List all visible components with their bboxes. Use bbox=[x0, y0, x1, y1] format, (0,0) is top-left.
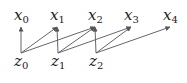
edge-z2-to-x4-arrow-icon bbox=[96, 27, 170, 53]
edge-z1-to-x2-arrow-icon bbox=[58, 27, 95, 53]
node-z2: z2 bbox=[88, 52, 103, 71]
top-node-labels: x0x1x2x3x4 bbox=[14, 6, 178, 25]
node-z0: z0 bbox=[13, 52, 28, 71]
edge-z2-to-x2-arrow-icon bbox=[95, 27, 96, 53]
edge-z0-to-x1-arrow-icon bbox=[21, 27, 57, 53]
edge-z1-to-x3-arrow-icon bbox=[58, 27, 131, 53]
edge-z2-to-x3-arrow-icon bbox=[96, 27, 131, 53]
node-x4: x4 bbox=[163, 6, 178, 25]
node-x2: x2 bbox=[88, 6, 103, 25]
node-x1: x1 bbox=[50, 6, 65, 25]
node-z1: z1 bbox=[50, 52, 65, 71]
node-x3: x3 bbox=[124, 6, 139, 25]
edge-z1-to-x1-arrow-icon bbox=[57, 27, 58, 53]
bottom-node-labels: z0z1z2 bbox=[13, 52, 103, 71]
node-x0: x0 bbox=[14, 6, 29, 25]
edges-group bbox=[21, 27, 170, 53]
latent-graph-diagram: x0x1x2x3x4 z0z1z2 bbox=[0, 0, 187, 83]
